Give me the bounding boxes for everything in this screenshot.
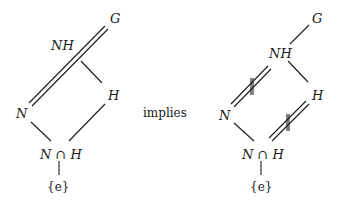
edge-NH-H	[288, 61, 308, 82]
edge-N-NH-double-marked	[231, 66, 271, 107]
node-e: {e}	[47, 180, 69, 194]
left-lattice: G NH H N N ∩ H {e}	[15, 11, 120, 194]
node-H: H	[311, 88, 324, 103]
edge-NcapH-H-double-marked	[269, 101, 309, 141]
node-NH: NH	[268, 46, 292, 61]
node-NcapH: N ∩ H	[241, 147, 285, 162]
subgroup-lattice-diagram: G NH H N N ∩ H {e} implies G	[0, 0, 340, 207]
node-e: {e}	[250, 180, 272, 194]
node-G: G	[110, 11, 120, 26]
node-H: H	[107, 88, 120, 103]
right-lattice: G NH H N N ∩ H {e}	[218, 11, 324, 194]
implies-text: implies	[143, 106, 187, 120]
node-N: N	[15, 106, 28, 121]
edge-H-NcapH	[69, 104, 105, 141]
node-G: G	[312, 11, 322, 26]
node-NcapH: N ∩ H	[39, 147, 83, 162]
edge-N-NcapH	[31, 122, 51, 141]
node-NH: NH	[50, 38, 74, 53]
edge-NH-H	[81, 61, 102, 83]
edge-NH-G	[290, 25, 309, 44]
edge-N-NcapH	[234, 123, 254, 141]
node-N: N	[218, 108, 231, 123]
